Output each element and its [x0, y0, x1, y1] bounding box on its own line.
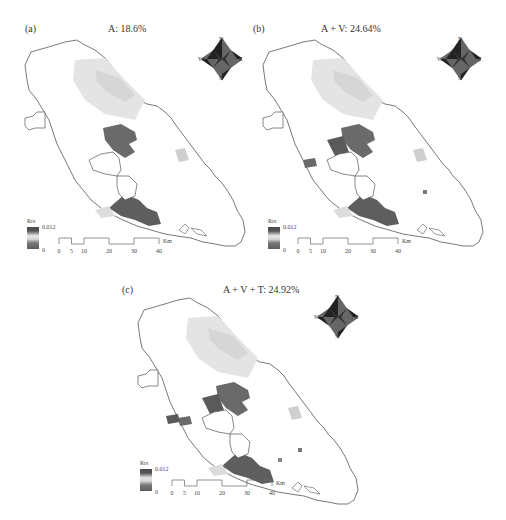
compass-rose: NSEW — [318, 294, 358, 340]
rrs-patch — [298, 448, 302, 452]
compass-label-n: N — [219, 36, 223, 42]
scale-tick-label: 10 — [194, 490, 200, 496]
compass-label-w: W — [314, 314, 320, 320]
scale-tick-label: 40 — [395, 248, 401, 254]
scale-bar-line — [296, 236, 406, 248]
rrs-patch — [423, 190, 427, 194]
scale-tick-label: 40 — [269, 490, 275, 496]
legend-min-label: 0 — [155, 489, 158, 495]
scale-bar-line — [170, 478, 280, 490]
compass-rose: NSEW — [441, 36, 481, 82]
compass-rose: NSEW — [202, 36, 242, 82]
legend-max-label: 0.012 — [155, 466, 169, 472]
compass-label-s: S — [458, 75, 461, 81]
legend-max-label: 0.012 — [42, 224, 56, 230]
scale-tick-label: 30 — [244, 490, 250, 496]
compass-label-n: N — [458, 36, 462, 42]
legend-color-bar — [268, 227, 280, 249]
scale-tick-label: 10 — [320, 248, 326, 254]
scale-tick-label: 0 — [171, 490, 174, 496]
scale-tick-label: 30 — [131, 248, 137, 254]
panel-b: (b) A + V: 24.64% NSEW Rrs0.0120 0510203… — [253, 0, 506, 260]
legend-color-bar — [140, 469, 152, 491]
lake-outline — [138, 370, 158, 388]
scale-tick-label: 40 — [156, 248, 162, 254]
compass-label-n: N — [335, 294, 339, 300]
scale-tick-label: 5 — [309, 248, 312, 254]
scale-tick-label: 20 — [345, 248, 351, 254]
scale-tick-label: 20 — [219, 490, 225, 496]
lake-outline — [25, 112, 45, 130]
rrs-patch — [278, 458, 282, 462]
compass-label-e: E — [478, 56, 482, 62]
legend-title: Rrs — [27, 218, 35, 224]
legend-title: Rrs — [268, 218, 276, 224]
legend-max-label: 0.012 — [283, 224, 297, 230]
scale-unit-label: Km — [402, 238, 411, 244]
scale-tick-label: 0 — [58, 248, 61, 254]
scale-tick-label: 0 — [297, 248, 300, 254]
panel-a: (a) A: 18.6% NSEW Rrs0.0120 0510203040Km — [0, 0, 253, 260]
scale-tick-label: 10 — [81, 248, 87, 254]
scale-bar-line — [57, 236, 167, 248]
panel-c: (c) A + V + T: 24.92% NSEW Rrs0.0120 051… — [100, 270, 400, 520]
scale-tick-label: 5 — [70, 248, 73, 254]
compass-label-s: S — [335, 333, 338, 339]
lake-outline — [263, 112, 283, 130]
legend-title: Rrs — [140, 460, 148, 466]
compass-label-e: E — [355, 314, 359, 320]
legend-min-label: 0 — [42, 247, 45, 253]
legend-color-bar — [27, 227, 39, 249]
compass-label-e: E — [239, 56, 243, 62]
scale-unit-label: Km — [276, 480, 285, 486]
rrs-patch — [166, 414, 180, 424]
compass-label-s: S — [219, 75, 222, 81]
scale-unit-label: Km — [163, 238, 172, 244]
scale-tick-label: 30 — [370, 248, 376, 254]
legend-min-label: 0 — [283, 247, 286, 253]
compass-label-w: W — [437, 56, 443, 62]
scale-tick-label: 5 — [183, 490, 186, 496]
scale-tick-label: 20 — [106, 248, 112, 254]
compass-label-w: W — [198, 56, 204, 62]
